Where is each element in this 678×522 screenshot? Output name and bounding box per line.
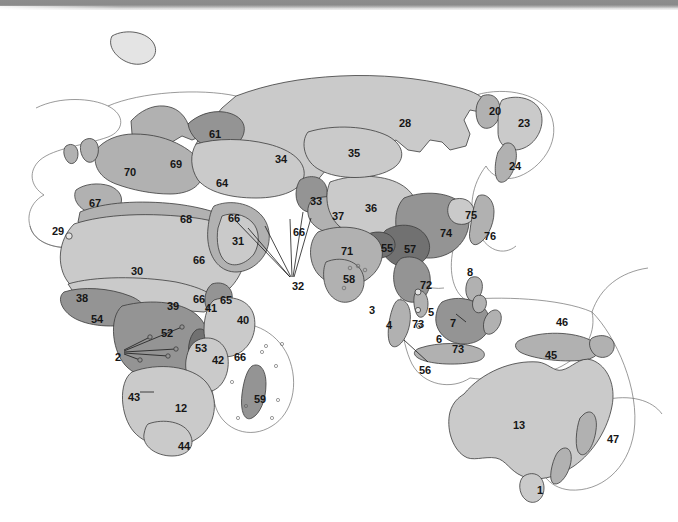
map-label-island-marker-persian-gulf: 66 [293,227,305,238]
map-label-central-siberia: 35 [348,148,360,159]
map-label-western-europe: 70 [124,167,136,178]
map-label-ethiopian-highlands: 41 [205,303,217,314]
map-label-upper-guinea: 54 [91,314,103,325]
world-map-graphic: .o { stroke:#3b3b3b; stroke-width:0.8; s… [0,0,678,522]
map-label-sahel: 39 [167,301,179,312]
map-label-sumatra-north: 73 [412,319,424,330]
map-label-west-african-coast: 38 [76,293,88,304]
map-label-central-asia-highland: 33 [310,196,322,207]
map-label-white-sea: 61 [209,129,221,140]
map-label-caucasus: 64 [216,178,228,189]
map-label-malay-peninsula: 5 [428,307,434,318]
map-label-angola-coast: 43 [128,392,140,403]
map-label-gulf-of-guinea-islands: 2 [115,352,121,363]
map-label-sakhalin: 24 [509,161,521,172]
map-label-western-pacific: 46 [556,317,568,328]
map-label-horn-of-africa: 65 [220,295,232,306]
australia-newzealand [449,359,613,502]
map-label-indian-ocean: 4 [386,320,392,331]
map-label-congo-basin: 52 [161,328,173,339]
map-label-sumatra: 56 [419,365,431,376]
map-label-arabian-peninsula: 31 [232,236,244,247]
map-label-south-china: 57 [404,244,416,255]
map-label-deccan: 58 [343,274,355,285]
map-label-mongolia: 36 [365,203,377,214]
map-label-albertine-rift: 53 [195,343,207,354]
map-label-azores: 29 [52,226,64,237]
map-label-mediterranean: 68 [180,214,192,225]
map-label-sri-lanka: 3 [369,305,375,316]
map-label-java: 6 [436,334,442,345]
map-label-australia: 13 [513,420,525,431]
map-label-himalaya: 55 [381,243,393,254]
map-label-tasmania: 1 [537,485,543,496]
map-label-indo-gangetic-plain: 71 [341,246,353,257]
map-label-iberia: 67 [89,198,101,209]
map-label-southern-africa: 12 [175,403,187,414]
map-label-island-marker-comoros: 66 [234,352,246,363]
map-label-island-marker-red-sea: 66 [193,255,205,266]
map-label-siberia: 28 [399,118,411,129]
map-label-indochina: 72 [420,280,432,291]
map-label-kamchatka: 20 [489,106,501,117]
map-label-japan: 76 [484,231,496,242]
map-label-madagascar: 59 [254,394,266,405]
map-label-borneo: 7 [450,318,456,329]
map-label-cape-region: 44 [178,441,190,452]
map-label-lesser-sundas: 73 [452,344,464,355]
map-label-mozambique: 42 [212,355,224,366]
map-label-new-zealand: 47 [607,434,619,445]
map-label-east-africa: 40 [237,315,249,326]
map-label-west-siberia: 34 [275,154,287,165]
map-label-sahara: 30 [131,266,143,277]
map-label-sea-of-okhotsk: 23 [518,118,530,129]
map-figure: .o { stroke:#3b3b3b; stroke-width:0.8; s… [0,0,678,522]
map-label-philippines: 8 [467,267,473,278]
map-label-middle-east-islands: 32 [292,281,304,292]
map-label-east-china: 74 [440,228,452,239]
map-label-island-marker-guinea: 66 [193,294,205,305]
map-label-tibetan-plateau: 37 [332,211,344,222]
map-label-new-guinea: 45 [545,350,557,361]
map-label-island-marker-levant: 66 [228,213,240,224]
map-label-eastern-europe: 69 [170,159,182,170]
map-label-korea: 75 [465,210,477,221]
